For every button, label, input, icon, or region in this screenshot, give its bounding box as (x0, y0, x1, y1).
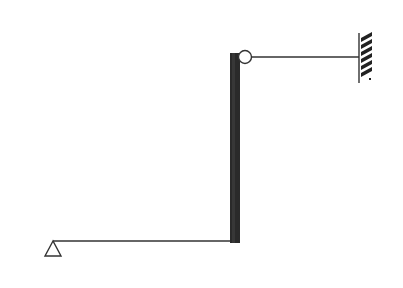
fixed-wall-hatch-icon (361, 32, 372, 80)
hinge-icon (239, 51, 252, 64)
structure-diagram (0, 0, 403, 288)
diagram-canvas (0, 0, 403, 288)
column-shading (232, 53, 235, 243)
pin-support-icon (45, 241, 61, 256)
